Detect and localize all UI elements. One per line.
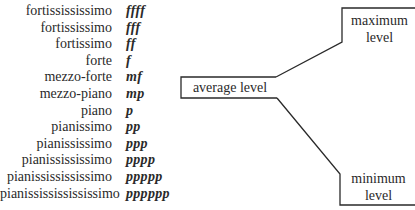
maximum-level-label: maximum level (344, 12, 415, 46)
maximum-level-text-line2: level (344, 29, 415, 46)
minimum-level-label: minimum level (342, 170, 415, 204)
minimum-level-text-line2: level (342, 187, 415, 204)
maximum-level-text-line1: maximum (344, 12, 415, 29)
average-level-text: average level (193, 80, 267, 95)
average-level-label: average level (186, 79, 274, 96)
minimum-level-text-line1: minimum (342, 170, 415, 187)
